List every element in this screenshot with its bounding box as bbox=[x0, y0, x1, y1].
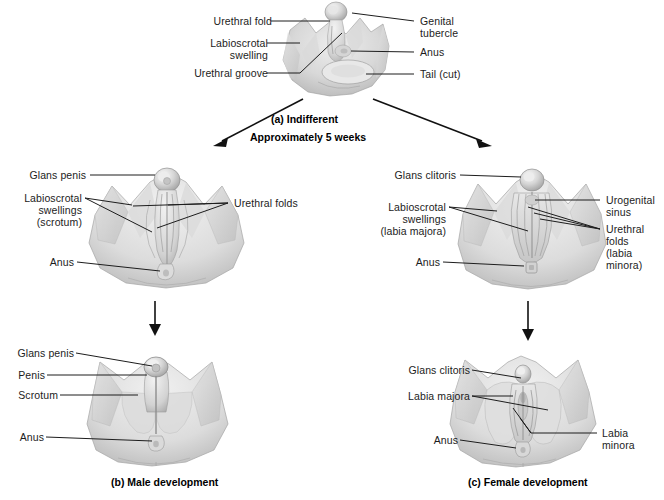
label-labioscrotal-swelling: Labioscrotal swelling bbox=[186, 37, 268, 61]
label-urethral-groove: Urethral groove bbox=[180, 67, 268, 79]
label-labioscrotal-swellings-labia-majora: Labioscrotal swellings (labia majora) bbox=[360, 201, 446, 237]
label-urogenital-sinus: Urogenital sinus bbox=[606, 194, 655, 218]
label-penis: Penis bbox=[2, 369, 45, 381]
label-tail-cut: Tail (cut) bbox=[420, 68, 461, 80]
arrow-female-down bbox=[522, 301, 534, 341]
label-scrotum: Scrotum bbox=[2, 389, 58, 401]
label-urethral-fold: Urethral fold bbox=[196, 15, 272, 27]
label-labia-minora: Labia minora bbox=[602, 427, 635, 451]
label-anus-indifferent: Anus bbox=[420, 46, 444, 58]
label-glans-penis-final: Glans penis bbox=[2, 347, 74, 359]
label-glans-clitoris-mid: Glans clitoris bbox=[376, 169, 456, 181]
illustration-male-middle bbox=[89, 168, 244, 288]
label-labioscrotal-swellings-scrotum: Labioscrotal swellings (scrotum) bbox=[6, 192, 82, 228]
diagram-canvas: Urethral fold Labioscrotal swelling Uret… bbox=[0, 0, 664, 500]
label-glans-clitoris-final: Glans clitoris bbox=[392, 364, 470, 376]
label-labia-majora: Labia majora bbox=[388, 390, 470, 402]
illustration-female-final bbox=[450, 356, 596, 467]
caption-male-development: (b) Male development bbox=[111, 476, 218, 489]
caption-female-development: (c) Female development bbox=[468, 476, 588, 489]
anatomy-illustrations bbox=[0, 0, 664, 500]
label-anus-female-mid: Anus bbox=[382, 256, 440, 268]
label-urethral-folds-male: Urethral folds bbox=[234, 197, 298, 209]
label-anus-female-final: Anus bbox=[396, 434, 458, 446]
label-genital-tubercle: Genital tubercle bbox=[420, 15, 458, 39]
caption-indifferent: (a) Indifferent bbox=[271, 113, 338, 126]
label-anus-male-final: Anus bbox=[2, 431, 44, 443]
arrow-to-female bbox=[373, 99, 492, 148]
arrow-male-down bbox=[149, 301, 161, 336]
illustration-male-final bbox=[87, 357, 228, 466]
label-anus-male-mid: Anus bbox=[14, 256, 74, 268]
illustration-female-middle bbox=[458, 169, 606, 289]
label-glans-penis-mid: Glans penis bbox=[12, 169, 86, 181]
label-urethral-folds-labia-minora: Urethral folds (labia minora) bbox=[606, 223, 644, 271]
subtitle-indifferent: Approximately 5 weeks bbox=[250, 131, 366, 144]
